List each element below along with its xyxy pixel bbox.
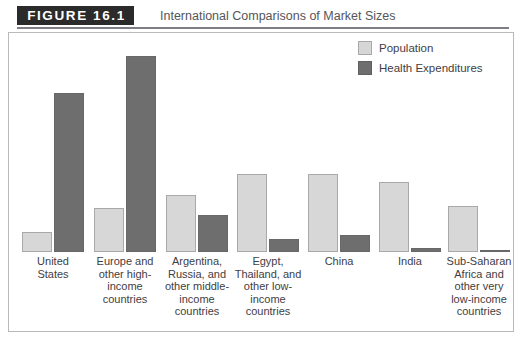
bar-population — [94, 208, 124, 252]
bar-group — [379, 33, 441, 252]
bar-population — [22, 232, 52, 252]
category-label-line: other very — [436, 280, 522, 293]
bar-health-expenditures — [411, 248, 441, 252]
bar-health-expenditures — [340, 235, 370, 252]
category-label-line: other low- — [225, 280, 311, 293]
bar-health-expenditures — [480, 250, 510, 252]
bar-group — [166, 33, 228, 252]
bar-group — [237, 33, 299, 252]
category-label-line: countries — [225, 305, 311, 318]
figure-number-tag: FIGURE 16.1 — [17, 6, 134, 25]
bar-group — [448, 33, 510, 252]
bars-area — [9, 33, 513, 252]
category-label-line: Africa and — [436, 268, 522, 281]
category-label: Sub-SaharanAfrica andother verylow-incom… — [436, 255, 522, 318]
bar-population — [448, 206, 478, 252]
bar-population — [237, 174, 267, 252]
figure-title: International Comparisons of Market Size… — [160, 7, 396, 25]
figure-header: FIGURE 16.1 International Comparisons of… — [17, 6, 507, 28]
category-label-line: low-income — [436, 293, 522, 306]
bar-health-expenditures — [269, 239, 299, 252]
bar-health-expenditures — [198, 215, 228, 252]
bar-population — [308, 174, 338, 252]
figure-root: FIGURE 16.1 International Comparisons of… — [0, 0, 522, 340]
header-divider — [17, 27, 509, 29]
bar-group — [94, 33, 156, 252]
bar-population — [379, 182, 409, 252]
category-label-line: Sub-Saharan — [436, 255, 522, 268]
bar-health-expenditures — [54, 93, 84, 252]
category-label-line: countries — [436, 305, 522, 318]
bar-population — [166, 195, 196, 252]
bar-health-expenditures — [126, 56, 156, 252]
category-label-line: income — [225, 293, 311, 306]
bar-group — [308, 33, 370, 252]
category-label-line: Thailand, and — [225, 268, 311, 281]
category-labels-area: UnitedStatesEurope andother high-incomec… — [9, 255, 513, 330]
bar-group — [22, 33, 84, 252]
